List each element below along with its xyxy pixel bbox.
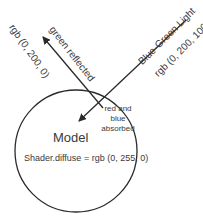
- absorbed-line-2: blue: [95, 114, 141, 124]
- model-title: Model: [53, 130, 88, 145]
- shader-diffuse-label: Shader.diffuse = rgb (0, 255, 0): [24, 153, 148, 163]
- absorbed-line-3: absorbed: [95, 124, 141, 134]
- absorbed-line-1: red and: [95, 104, 141, 114]
- absorbed-label: red and blue absorbed: [95, 104, 141, 134]
